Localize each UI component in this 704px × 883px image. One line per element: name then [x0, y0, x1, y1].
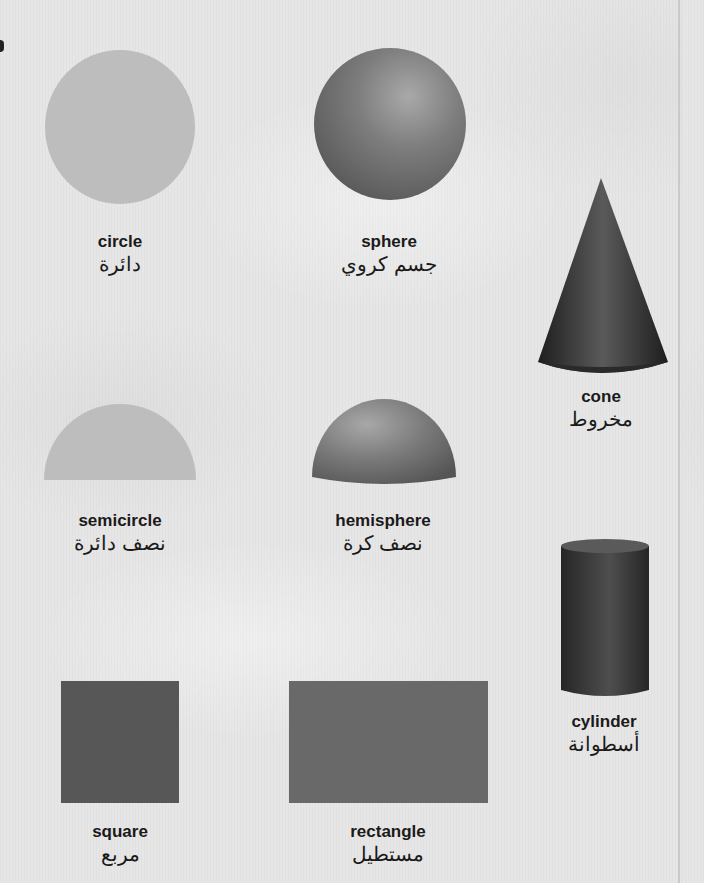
rectangle-label: rectangle مستطيل	[288, 822, 488, 866]
circle-label-en: circle	[20, 232, 220, 252]
square-label-ar: مربع	[20, 842, 220, 866]
hemisphere-label: hemisphere نصف كرة	[283, 511, 483, 555]
cylinder-label-en: cylinder	[504, 712, 704, 732]
sphere-shape	[312, 46, 468, 202]
cylinder-label: cylinder أسطوانة	[504, 712, 704, 756]
square-label-en: square	[20, 822, 220, 842]
circle-shape	[44, 49, 196, 205]
cone-label: cone مخروط	[501, 387, 701, 431]
hemisphere-shape	[312, 397, 456, 489]
square-shape	[61, 681, 179, 803]
sphere-label-ar: جسم كروي	[289, 252, 489, 276]
circle-label-ar: دائرة	[20, 252, 220, 276]
circle-label: circle دائرة	[20, 232, 220, 276]
rectangle-label-en: rectangle	[288, 822, 488, 842]
rectangle-label-ar: مستطيل	[288, 842, 488, 866]
cone-shape	[536, 176, 670, 376]
semicircle-shape	[44, 402, 196, 480]
cylinder-shape	[560, 538, 650, 700]
hemisphere-label-ar: نصف كرة	[283, 531, 483, 555]
hemisphere-label-en: hemisphere	[283, 511, 483, 531]
semicircle-label-en: semicircle	[20, 511, 220, 531]
edge-mark	[0, 40, 4, 52]
cone-label-en: cone	[501, 387, 701, 407]
sphere-label-en: sphere	[289, 232, 489, 252]
cylinder-label-ar: أسطوانة	[504, 732, 704, 756]
semicircle-label: semicircle نصف دائرة	[20, 511, 220, 555]
rectangle-shape	[289, 681, 488, 803]
cone-label-ar: مخروط	[501, 407, 701, 431]
sphere-label: sphere جسم كروي	[289, 232, 489, 276]
square-label: square مربع	[20, 822, 220, 866]
semicircle-label-ar: نصف دائرة	[20, 531, 220, 555]
